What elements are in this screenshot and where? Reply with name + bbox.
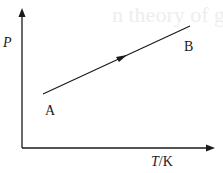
direction-arrow-icon xyxy=(116,55,127,62)
point-a-label: A xyxy=(45,104,55,118)
x-axis-label-var: T xyxy=(151,154,159,169)
x-axis-label-unit: /K xyxy=(159,154,173,169)
point-b-label: B xyxy=(184,40,193,54)
x-axis-label: T/K xyxy=(151,155,173,169)
x-axis-arrowhead-icon xyxy=(206,145,215,152)
y-axis-arrowhead-icon xyxy=(19,8,26,17)
process-line xyxy=(43,26,190,94)
pt-diagram xyxy=(0,0,223,173)
y-axis-label: P xyxy=(3,36,12,50)
